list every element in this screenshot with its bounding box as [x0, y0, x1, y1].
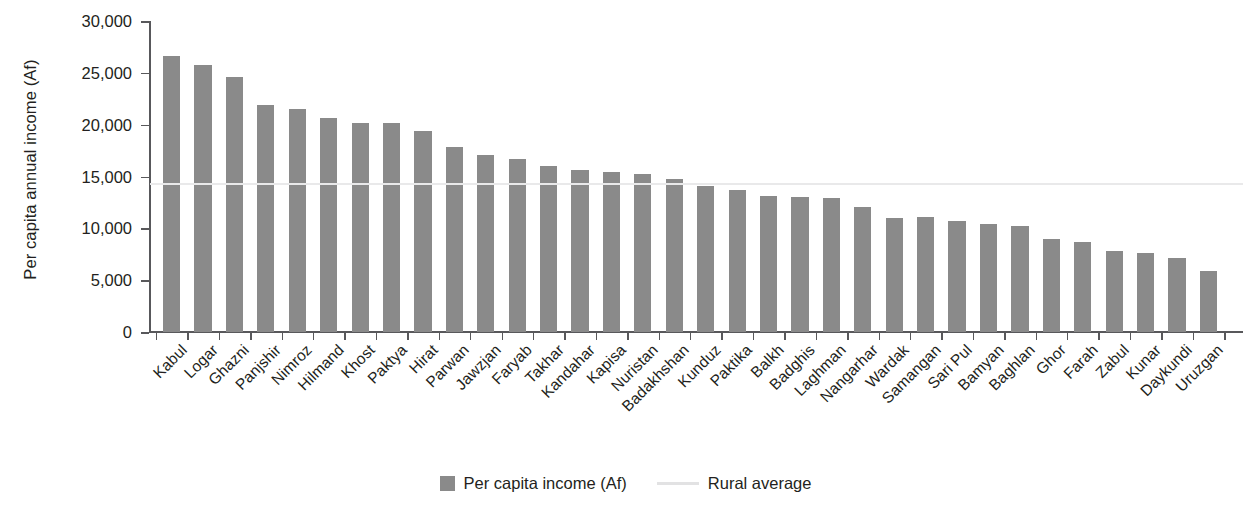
x-tick-label-text: Laghman	[791, 341, 850, 400]
x-tick-mark	[816, 332, 817, 340]
x-tick-label-text: Badghis	[766, 341, 819, 394]
x-tick-mark	[690, 332, 691, 340]
x-tick-label-text: Baghlan	[985, 341, 1038, 394]
bar	[634, 174, 651, 332]
x-tick-label-text: Ghor	[1033, 341, 1070, 378]
x-tick-label-text: Takhar	[521, 341, 567, 387]
y-tick-mark	[141, 177, 149, 179]
x-tick-mark	[721, 332, 722, 340]
bar	[257, 105, 274, 332]
x-tick-label-text: Badakhshan	[619, 341, 693, 415]
x-tick-label-text: Nangarhar	[816, 341, 881, 406]
x-tick-label-text: Panjshir	[232, 341, 285, 394]
x-tick-mark	[879, 332, 880, 340]
legend-swatch-icon	[440, 476, 455, 491]
x-tick-label-text: Khost	[338, 341, 379, 382]
x-tick-label-text: Nimroz	[268, 341, 316, 389]
x-tick-mark	[313, 332, 314, 340]
x-tick-mark	[282, 332, 283, 340]
x-tick-mark	[941, 332, 942, 340]
x-tick-label-text: Daykundi	[1137, 341, 1196, 400]
y-tick-mark	[141, 332, 149, 334]
x-tick-mark	[973, 332, 974, 340]
legend-item-per-capita-income: Per capita income (Af)	[440, 474, 627, 493]
x-tick-mark	[1004, 332, 1005, 340]
bar	[729, 190, 746, 332]
x-tick-label-text: Samangan	[878, 341, 944, 407]
x-tick-label-text: Kunar	[1122, 341, 1164, 383]
bar	[1200, 271, 1217, 332]
x-tick-mark	[627, 332, 628, 340]
y-tick-mark	[141, 73, 149, 75]
x-tick-mark	[470, 332, 471, 340]
x-tick-mark	[250, 332, 251, 340]
bar	[320, 118, 337, 332]
x-tick-label-text: Nuristan	[608, 341, 662, 395]
y-tick-mark	[141, 228, 149, 230]
bar	[414, 131, 431, 332]
bar	[289, 109, 306, 332]
bar	[540, 166, 557, 332]
x-tick-mark	[219, 332, 220, 340]
bar	[948, 221, 965, 332]
x-tick-mark	[439, 332, 440, 340]
rural-average-line	[150, 183, 1243, 185]
bar	[163, 56, 180, 332]
x-tick-mark	[533, 332, 534, 340]
plot-area	[149, 21, 1243, 332]
bar	[823, 198, 840, 332]
x-tick-label-text: Kabul	[149, 341, 190, 382]
x-tick-mark	[1224, 332, 1225, 340]
bar	[980, 224, 997, 332]
x-tick-label-text: Kunduz	[674, 341, 724, 391]
bar	[666, 179, 683, 332]
x-tick-label-text: Logar	[181, 341, 222, 382]
x-tick-mark	[847, 332, 848, 340]
bar	[1074, 242, 1091, 332]
y-tick-label: 15,000	[82, 167, 132, 186]
x-tick-mark	[502, 332, 503, 340]
x-tick-mark	[376, 332, 377, 340]
x-tick-label-text: Balkh	[747, 341, 788, 382]
x-tick-label-text: Jawzjan	[452, 341, 505, 394]
y-tick-label: 10,000	[82, 219, 132, 238]
x-tick-label-text: Kapisa	[584, 341, 631, 388]
y-tick-mark	[141, 21, 149, 23]
y-tick-label: 20,000	[82, 115, 132, 134]
x-tick-mark	[156, 332, 157, 340]
x-tick-mark	[344, 332, 345, 340]
x-tick-label-text: Paktika	[707, 341, 756, 390]
bar	[791, 197, 808, 332]
legend-line-icon	[657, 482, 699, 484]
x-tick-label-text: Uruzgan	[1173, 341, 1228, 396]
bar	[1137, 253, 1154, 332]
legend-label-rural-average: Rural average	[708, 474, 812, 493]
bar	[1043, 239, 1060, 332]
x-tick-mark	[1161, 332, 1162, 340]
x-tick-mark	[596, 332, 597, 340]
x-tick-mark	[659, 332, 660, 340]
y-tick-label: 25,000	[82, 63, 132, 82]
bar	[760, 196, 777, 332]
y-tick-mark	[141, 125, 149, 127]
x-tick-mark	[1067, 332, 1068, 340]
bar	[1011, 226, 1028, 332]
x-tick-mark	[784, 332, 785, 340]
x-tick-label-text: Ghazni	[205, 341, 253, 389]
y-tick-label: 30,000	[82, 12, 132, 31]
x-tick-mark	[1098, 332, 1099, 340]
x-tick-mark	[910, 332, 911, 340]
x-tick-mark	[407, 332, 408, 340]
x-tick-label-text: Parwan	[423, 341, 473, 391]
x-tick-mark	[187, 332, 188, 340]
bar	[1106, 251, 1123, 332]
bar	[917, 217, 934, 332]
x-tick-mark	[1193, 332, 1194, 340]
x-tick-label-text: Bamyan	[954, 341, 1007, 394]
legend-label-per-capita-income: Per capita income (Af)	[464, 474, 627, 493]
x-tick-label-text: Paktya	[364, 341, 411, 388]
x-tick-mark	[564, 332, 565, 340]
bar	[603, 172, 620, 332]
x-tick-mark	[1036, 332, 1037, 340]
x-tick-label-text: Farah	[1060, 341, 1102, 383]
